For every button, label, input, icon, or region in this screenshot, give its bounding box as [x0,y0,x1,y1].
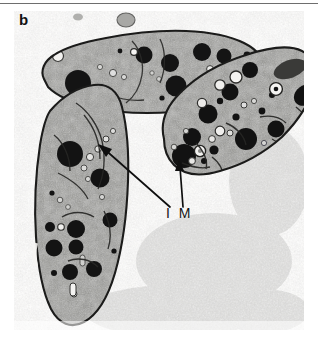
page-rule-divider [0,3,318,4]
micrograph-bottom-fade [14,321,304,330]
electron-micrograph-image [14,11,304,330]
micrograph-canvas [14,11,304,330]
annotation-label-im: I M [166,206,193,221]
figure-panel-b: b I M [0,0,318,346]
panel-label-b: b [19,11,28,28]
cell-left-envelope-gap [35,243,37,266]
